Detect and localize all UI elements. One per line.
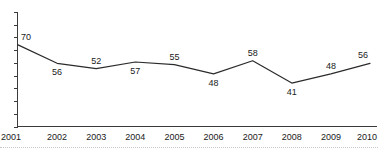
x-tick-label-2006: 2006: [204, 132, 224, 142]
data-label-2001: 70: [21, 32, 31, 42]
x-tick-label-2001: 2001: [1, 132, 21, 142]
x-tick-label-2007: 2007: [243, 132, 263, 142]
plot-area: [18, 45, 370, 83]
x-tick-label-2003: 2003: [86, 132, 106, 142]
x-tick-label-2009: 2009: [321, 132, 341, 142]
data-label-2002: 56: [52, 67, 62, 77]
series-line-path: [18, 45, 370, 83]
footer-divider: [0, 147, 378, 149]
data-label-2003: 52: [91, 56, 101, 66]
x-tick-label-2010: 2010: [357, 132, 377, 142]
data-label-2005: 55: [169, 52, 179, 62]
data-label-2010: 56: [358, 50, 368, 60]
y-axis: [14, 12, 18, 128]
data-label-2006: 48: [209, 78, 219, 88]
x-tick-label-2005: 2005: [164, 132, 184, 142]
x-tick-label-2002: 2002: [47, 132, 67, 142]
x-tick-label-2008: 2008: [282, 132, 302, 142]
y-axis-tick-marks: [14, 13, 18, 128]
data-label-group: 70565257554858414856: [21, 32, 368, 97]
data-label-2008: 41: [287, 87, 297, 97]
data-label-2004: 57: [130, 66, 140, 76]
line-chart-figure: 70565257554858414856 2001200220032004200…: [0, 0, 378, 151]
x-tick-label-2004: 2004: [125, 132, 145, 142]
x-tick-label-group: 2001200220032004200520062007200820092010: [1, 132, 377, 142]
data-label-2007: 58: [248, 48, 258, 58]
chart-canvas: 70565257554858414856 2001200220032004200…: [0, 0, 378, 151]
data-label-2009: 48: [326, 61, 336, 71]
